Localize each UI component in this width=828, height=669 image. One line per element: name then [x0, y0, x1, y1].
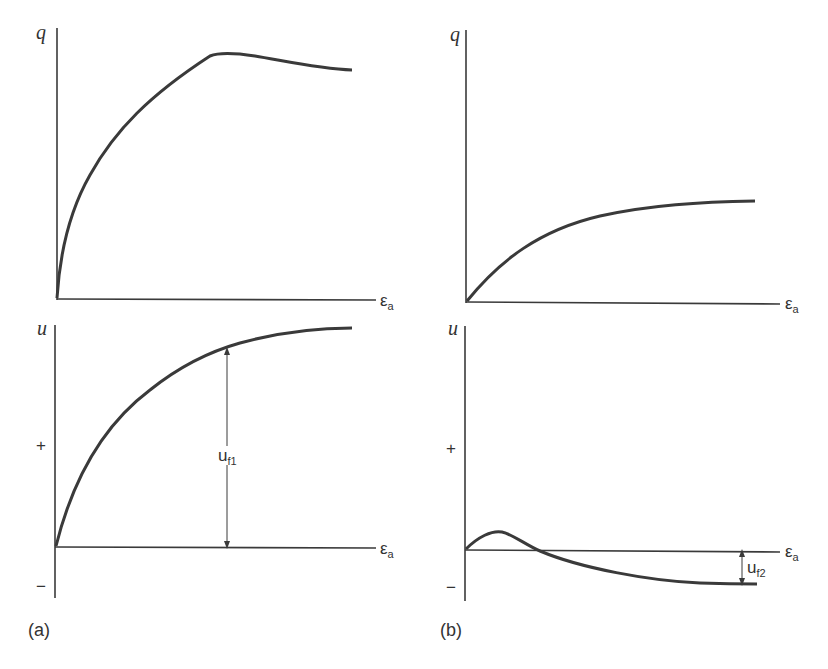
eps-subscript: a — [388, 300, 394, 312]
eps-subscript: a — [388, 548, 394, 560]
panel-b-top-chart — [466, 30, 780, 304]
panel-a-label: (a) — [28, 621, 50, 639]
eps-subscript: a — [793, 551, 799, 563]
figure-canvas — [0, 0, 828, 669]
x-axis — [57, 299, 376, 300]
eps-axis-label-b-top: εa — [785, 295, 799, 312]
eps-axis-label-a-top: εa — [380, 292, 394, 309]
q-axis-label-b: q — [450, 24, 460, 44]
plus-sign-b: + — [446, 440, 456, 457]
q-curve-b — [467, 201, 755, 301]
plus-sign-a: + — [36, 437, 46, 454]
u-axis-label-a: u — [37, 318, 47, 338]
eps-symbol: ε — [380, 291, 388, 310]
minus-sign-a: − — [36, 578, 46, 595]
eps-symbol: ε — [785, 542, 793, 561]
eps-symbol: ε — [380, 539, 388, 558]
q-axis-label-a: q — [36, 22, 46, 42]
u-axis-label-b: u — [448, 318, 458, 338]
eps-subscript: a — [793, 303, 799, 315]
u-curve-b — [466, 532, 757, 584]
uf2-label: uf2 — [747, 559, 766, 576]
panel-b-bottom-chart — [465, 326, 780, 601]
uf1-subscript: f1 — [227, 455, 236, 467]
eps-symbol: ε — [785, 294, 793, 313]
eps-axis-label-b-bottom: εa — [785, 543, 799, 560]
minus-sign-b: − — [446, 579, 456, 596]
x-axis — [466, 302, 780, 304]
eps-axis-label-a-bottom: εa — [380, 540, 394, 557]
x-axis — [465, 550, 780, 552]
u-curve-a — [56, 328, 352, 546]
panel-b-label: (b) — [440, 621, 462, 639]
x-axis — [55, 547, 376, 548]
q-curve-a — [57, 53, 352, 298]
uf2-subscript: f2 — [756, 567, 765, 579]
uf1-label: uf1 — [216, 446, 239, 465]
panel-a-top-chart — [57, 28, 376, 300]
